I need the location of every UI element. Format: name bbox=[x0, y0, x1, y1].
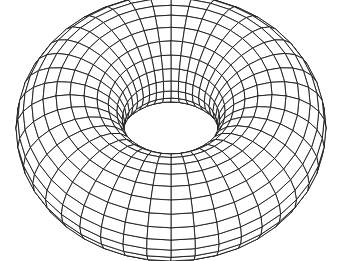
torus-wireframe bbox=[0, 0, 340, 261]
torus-mesh bbox=[16, 0, 326, 261]
figure-canvas bbox=[0, 0, 340, 261]
